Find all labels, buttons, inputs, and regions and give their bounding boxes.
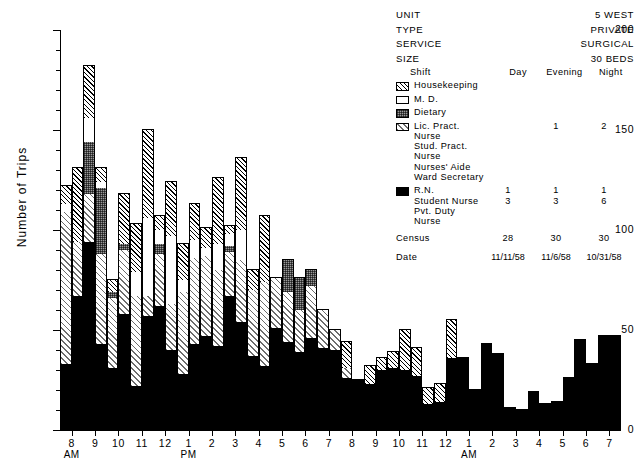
bar bbox=[352, 380, 364, 430]
bar-segment bbox=[282, 291, 294, 342]
bar-segment bbox=[83, 117, 95, 142]
bar-segment bbox=[83, 241, 95, 430]
bar bbox=[586, 364, 598, 430]
x-tick bbox=[376, 431, 377, 436]
x-tick bbox=[446, 431, 447, 436]
info-row-unit: UNIT5 WEST bbox=[396, 8, 634, 23]
date-row: Date 11/11/58 11/6/58 10/31/58 bbox=[396, 250, 634, 264]
x-tick-label: 11 bbox=[130, 437, 154, 449]
bar-segment bbox=[247, 269, 259, 290]
x-tick-label: 4 bbox=[247, 437, 271, 449]
legend-count bbox=[484, 121, 532, 131]
bar-segment bbox=[72, 295, 84, 430]
bar-segment bbox=[154, 229, 166, 244]
legend-count-col bbox=[484, 94, 532, 105]
bar bbox=[563, 378, 575, 430]
info-key: UNIT bbox=[396, 8, 421, 23]
bar-segment bbox=[434, 383, 446, 402]
bar-segment bbox=[446, 357, 458, 430]
legend-counts: 1 2 bbox=[484, 121, 628, 183]
x-tick-label: 5 bbox=[270, 437, 294, 449]
unit-info-table: UNIT5 WESTTYPEPRIVATESERVICESURGICALSIZE… bbox=[396, 8, 634, 66]
bar bbox=[457, 358, 469, 430]
x-tick bbox=[469, 431, 470, 436]
legend-count-col bbox=[532, 80, 580, 91]
white-swatch bbox=[396, 96, 409, 105]
legend-label: Dietary bbox=[414, 107, 446, 117]
bar-segment bbox=[95, 167, 107, 182]
bar-segment bbox=[411, 375, 423, 430]
legend-count bbox=[532, 131, 580, 141]
x-tick bbox=[609, 431, 610, 436]
x-tick bbox=[352, 431, 353, 436]
bar-segment bbox=[282, 341, 294, 430]
bar-segment bbox=[118, 193, 130, 244]
bar-segment bbox=[341, 367, 353, 378]
info-row-type: TYPEPRIVATE bbox=[396, 23, 634, 38]
bar-segment bbox=[107, 297, 119, 368]
legend-count-col: 16 bbox=[580, 185, 628, 226]
legend-count bbox=[580, 80, 628, 90]
bar-segment bbox=[212, 345, 224, 430]
bar-segment bbox=[177, 291, 189, 374]
legend-and-staffing-table: Shift Day Evening Night Housekeeping M. … bbox=[396, 64, 634, 264]
bar bbox=[341, 342, 353, 430]
legend-count-col bbox=[532, 107, 580, 118]
bar-segment bbox=[189, 343, 201, 430]
legend-count: 3 bbox=[532, 196, 580, 206]
bar-segment bbox=[294, 309, 306, 352]
bar bbox=[305, 270, 317, 430]
bar-segment bbox=[270, 277, 282, 328]
bar-segment bbox=[305, 337, 317, 430]
bar-segment bbox=[422, 403, 434, 430]
bar-segment bbox=[528, 391, 540, 430]
x-tick-label: 8 bbox=[60, 437, 84, 449]
bar-segment bbox=[212, 269, 224, 346]
date-night: 10/31/58 bbox=[580, 250, 628, 264]
x-tick-label: 3 bbox=[504, 437, 528, 449]
x-tick-label: 12 bbox=[434, 437, 458, 449]
legend-label: R.N. bbox=[414, 185, 484, 195]
bar bbox=[224, 226, 236, 430]
bar bbox=[376, 358, 388, 430]
legend-count: 1 bbox=[532, 185, 580, 195]
bar-segment bbox=[247, 289, 259, 356]
x-tick-label: 3 bbox=[223, 437, 247, 449]
bar bbox=[235, 158, 247, 430]
bar bbox=[329, 330, 341, 430]
bar bbox=[539, 404, 551, 430]
x-tick bbox=[235, 431, 236, 436]
legend-label: Lic. Pract. Nurse bbox=[414, 121, 484, 142]
legend-count bbox=[484, 131, 532, 141]
bar bbox=[434, 384, 446, 430]
x-tick-label: 5 bbox=[551, 437, 575, 449]
bar-segment bbox=[118, 313, 130, 430]
legend-count-col bbox=[580, 94, 628, 105]
legend-item: M. D. bbox=[396, 94, 634, 105]
bar bbox=[83, 66, 95, 430]
bar-segment bbox=[317, 347, 329, 430]
bar-segment bbox=[212, 243, 224, 270]
bar-segment bbox=[224, 251, 236, 296]
x-tick bbox=[516, 431, 517, 436]
legend-label: Housekeeping bbox=[414, 80, 478, 90]
bar-segment bbox=[107, 291, 119, 298]
bar-segment bbox=[422, 387, 434, 404]
date-day: 11/11/58 bbox=[484, 250, 532, 264]
info-value: 5 WEST bbox=[595, 8, 634, 23]
bar-segment bbox=[399, 329, 411, 370]
bar-segment bbox=[130, 385, 142, 430]
bar-segment bbox=[177, 279, 189, 292]
bar bbox=[364, 366, 376, 430]
bar-segment bbox=[376, 369, 388, 430]
bar bbox=[270, 278, 282, 430]
legend-counts bbox=[484, 107, 628, 118]
bar-segment bbox=[142, 217, 154, 296]
bar-segment bbox=[259, 281, 271, 366]
legend-label: M. D. bbox=[414, 94, 438, 104]
x-tick-meridiem: PM bbox=[174, 449, 204, 460]
bar bbox=[446, 320, 458, 430]
legend-count bbox=[484, 107, 532, 117]
bar-segment bbox=[235, 229, 247, 260]
bar-segment bbox=[165, 235, 177, 304]
